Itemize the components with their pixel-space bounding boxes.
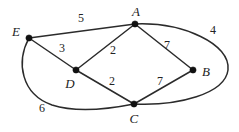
vertex-label-c: C (130, 112, 139, 125)
vertex-label-e: E (12, 25, 20, 38)
vertex-label-a: A (132, 5, 140, 18)
edge-weight-a-b: 7 (164, 39, 170, 51)
edges-layer (22, 24, 228, 110)
edge-c-b (134, 70, 193, 104)
edge-weight-e-a: 5 (78, 12, 84, 24)
edge-weight-d-a: 2 (110, 44, 116, 56)
vertex-dot-e (26, 35, 32, 41)
edge-e-c-bottom (22, 38, 134, 110)
edge-weight-d-c: 2 (109, 75, 115, 87)
vertex-dot-d (73, 67, 79, 73)
graph-figure: 53272746ABCDE (0, 0, 239, 132)
edge-weight-e-d: 3 (59, 42, 65, 54)
edge-e-d (29, 38, 76, 70)
edge-weight-e-c-bottom: 6 (39, 102, 45, 114)
edge-weight-a-c-right: 4 (210, 24, 216, 36)
edge-d-c (76, 70, 134, 104)
edge-weight-c-b: 7 (157, 75, 163, 87)
vertex-label-d: D (65, 77, 75, 90)
vertex-dot-c (131, 101, 137, 107)
vertex-label-b: B (202, 65, 210, 78)
vertex-dot-a (132, 21, 138, 27)
vertices-layer (26, 21, 196, 107)
vertex-dot-b (190, 67, 196, 73)
